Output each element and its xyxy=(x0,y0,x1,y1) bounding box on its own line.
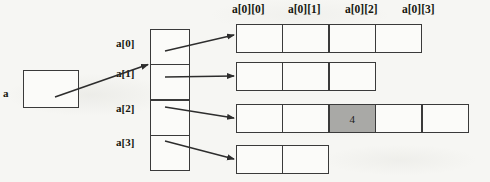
row-3-cell-0 xyxy=(236,145,283,174)
column-header-1: a[0][1] xyxy=(288,4,321,16)
pointer-array-cell-2 xyxy=(150,100,190,136)
row-2-cell-4 xyxy=(422,104,469,133)
root-pointer-box xyxy=(23,70,79,108)
row-1-cell-1 xyxy=(282,62,329,91)
column-header-3: a[0][3] xyxy=(402,4,435,16)
row-2-cell-3 xyxy=(375,104,422,133)
column-header-2: a[0][2] xyxy=(345,4,378,16)
row-1-cell-2 xyxy=(329,62,376,91)
pointer-array-cell-3 xyxy=(150,135,190,171)
row-0-cell-3 xyxy=(375,24,422,53)
pointer-array-cell-1 xyxy=(150,64,190,100)
pointer-array-label-0: a[0] xyxy=(116,38,134,49)
row-0-cell-2 xyxy=(329,24,376,53)
row-2-cell-1 xyxy=(282,104,329,133)
row-2-cell-0 xyxy=(236,104,283,133)
row-2-cell-2-highlighted: 4 xyxy=(329,104,376,133)
jagged-array-diagram: a a[0] a[1] a[2] a[3] a[0][0] a[0][1] a[… xyxy=(0,0,490,182)
pointer-array-cell-0 xyxy=(150,29,190,65)
column-header-0: a[0][0] xyxy=(232,4,265,16)
pointer-array-label-3: a[3] xyxy=(116,137,134,148)
row-0-cell-0 xyxy=(236,24,283,53)
pointer-array-label-1: a[1] xyxy=(116,68,134,79)
row-1-cell-0 xyxy=(236,62,283,91)
row-0-cell-1 xyxy=(282,24,329,53)
row-3-cell-1 xyxy=(282,145,329,174)
pointer-array-label-2: a[2] xyxy=(116,103,134,114)
root-pointer-label: a xyxy=(3,88,9,99)
